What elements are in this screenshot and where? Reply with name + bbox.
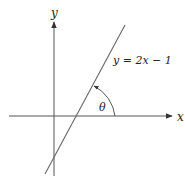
theta-label: θ	[99, 101, 106, 114]
equation-label: y = 2x − 1	[112, 54, 172, 67]
diagram-canvas: y x y = 2x − 1 θ	[0, 0, 185, 182]
y-axis-label: y	[50, 6, 58, 20]
graph-line	[45, 25, 125, 174]
x-axis-label: x	[177, 110, 184, 124]
